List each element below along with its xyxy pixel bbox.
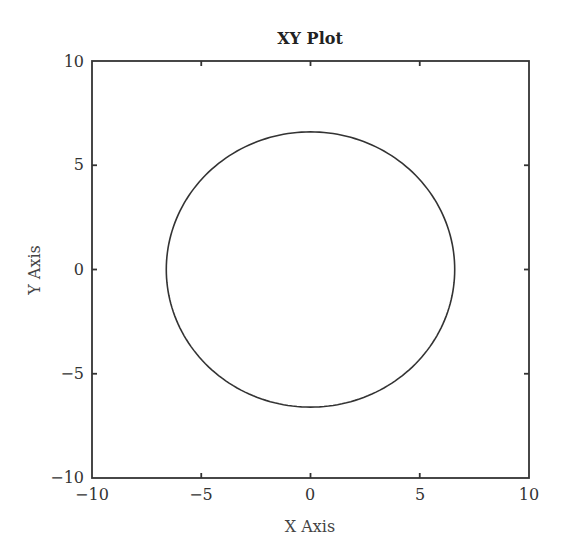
plot-area [92, 61, 529, 478]
y-tick-label: −10 [50, 468, 84, 487]
axes-box [92, 61, 529, 478]
x-tick-label: 10 [519, 485, 539, 504]
y-tick-label: −5 [60, 364, 84, 383]
x-tick-label: 0 [305, 485, 315, 504]
x-tick-label: −10 [75, 485, 109, 504]
x-tick-label: −5 [189, 485, 213, 504]
y-tick-label: 10 [64, 52, 84, 71]
y-tick-label: 0 [74, 260, 84, 279]
y-tick-label: 5 [74, 155, 84, 174]
chart-title: XY Plot [277, 29, 343, 48]
tick-marks [92, 61, 529, 478]
xy-plot-chart: XY Plot −10 −5 0 5 10 −10 −5 0 5 10 X Ax… [0, 0, 564, 558]
x-tick-label: 5 [415, 485, 425, 504]
circle-series [166, 132, 454, 407]
x-tick-labels: −10 −5 0 5 10 [75, 485, 539, 504]
x-axis-label: X Axis [285, 517, 335, 536]
y-axis-label: Y Axis [25, 245, 44, 296]
y-tick-labels: −10 −5 0 5 10 [50, 52, 84, 487]
